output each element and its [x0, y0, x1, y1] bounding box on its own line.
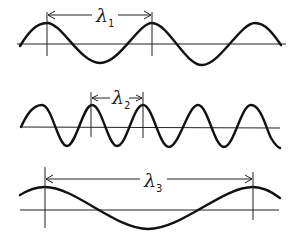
wavelength-diagram: λ1 λ2 λ3	[0, 0, 297, 240]
wave-2-curve	[21, 105, 280, 148]
wave-1-label: λ1	[95, 4, 114, 29]
wave-2-label: λ2	[111, 86, 130, 111]
wave-1-group: λ1	[17, 4, 286, 65]
wave-3-group: λ3	[20, 167, 280, 229]
wave-3-label: λ3	[143, 169, 162, 194]
wave-3-curve	[20, 187, 280, 229]
wave-2-group: λ2	[20, 86, 280, 148]
wave-2-axis	[20, 127, 280, 128]
